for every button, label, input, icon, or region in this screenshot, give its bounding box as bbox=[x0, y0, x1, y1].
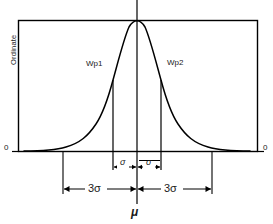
zero-label-right: 0 bbox=[263, 144, 267, 152]
three-sigma-right-label: 3σ bbox=[164, 183, 177, 194]
plot-frame bbox=[19, 21, 258, 152]
wp2-label: Wp2 bbox=[167, 59, 183, 67]
sigma-left-label: σ bbox=[120, 158, 125, 167]
normal-distribution-diagram bbox=[0, 0, 273, 224]
three-sigma-left-label: 3σ bbox=[88, 183, 101, 194]
zero-label-left: 0 bbox=[4, 144, 8, 152]
sigma-right-label: σ bbox=[146, 158, 151, 167]
ordinate-axis-label: Ordinate bbox=[10, 20, 18, 80]
wp1-label: Wp1 bbox=[86, 60, 102, 68]
mean-label: μ bbox=[131, 206, 138, 218]
